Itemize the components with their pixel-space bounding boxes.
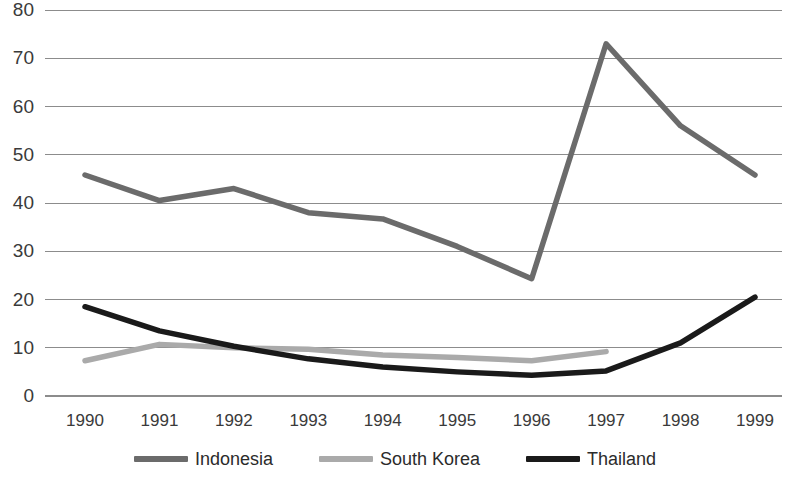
x-axis-label-1996: 1996 — [492, 412, 572, 429]
series-line-thailand — [85, 297, 755, 375]
legend-item-south-korea[interactable]: South Korea — [319, 450, 480, 468]
x-axis-label-1992: 1992 — [194, 412, 274, 429]
legend-label: South Korea — [380, 450, 480, 468]
chart-legend: IndonesiaSouth KoreaThailand — [0, 450, 790, 468]
y-axis-label-70: 70 — [13, 48, 34, 67]
y-axis-label-40: 40 — [13, 193, 34, 212]
x-axis-label-1997: 1997 — [566, 412, 646, 429]
x-axis-label-1990: 1990 — [45, 412, 125, 429]
data-series-group — [85, 44, 755, 375]
legend-swatch-icon — [134, 456, 188, 462]
x-axis-label-1993: 1993 — [268, 412, 348, 429]
y-axis-label-0: 0 — [23, 386, 34, 405]
y-axis-label-20: 20 — [13, 290, 34, 309]
x-axis-label-1998: 1998 — [641, 412, 721, 429]
legend-swatch-icon — [526, 456, 580, 462]
series-line-indonesia — [85, 44, 755, 279]
series-line-south-korea — [85, 344, 606, 360]
chart-plot-area — [0, 0, 790, 479]
legend-label: Indonesia — [195, 450, 273, 468]
x-axis-label-1999: 1999 — [715, 412, 790, 429]
y-axis-label-50: 50 — [13, 145, 34, 164]
y-axis-label-30: 30 — [13, 241, 34, 260]
x-axis-label-1991: 1991 — [119, 412, 199, 429]
x-axis-label-1994: 1994 — [343, 412, 423, 429]
line-chart: 01020304050607080 1990199119921993199419… — [0, 0, 790, 479]
x-axis-label-1995: 1995 — [417, 412, 497, 429]
legend-swatch-icon — [319, 456, 373, 462]
y-axis-label-80: 80 — [13, 0, 34, 19]
legend-item-thailand[interactable]: Thailand — [526, 450, 656, 468]
legend-label: Thailand — [587, 450, 656, 468]
legend-item-indonesia[interactable]: Indonesia — [134, 450, 273, 468]
y-axis-label-10: 10 — [13, 338, 34, 357]
gridlines — [45, 10, 782, 396]
y-axis-label-60: 60 — [13, 97, 34, 116]
